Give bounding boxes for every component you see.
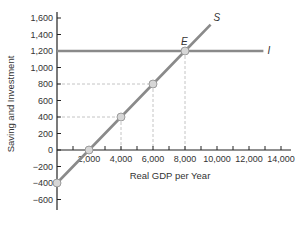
data-point-marker: [117, 113, 125, 121]
y-tick-label: 1,000: [30, 63, 53, 73]
y-axis-title: Saving and Investment: [5, 55, 16, 152]
data-point-marker: [181, 47, 189, 55]
saving-investment-chart: −600−400−20002004006008001,0001,2001,400…: [0, 0, 308, 226]
data-point-marker: [85, 146, 93, 154]
y-tick-label: 200: [38, 129, 53, 139]
x-tick-label: 10,000: [203, 154, 231, 164]
x-tick-label: 14,000: [267, 154, 295, 164]
x-tick-label: 8,000: [174, 154, 197, 164]
y-tick-label: −400: [33, 178, 53, 188]
y-tick-label: 1,200: [30, 46, 53, 56]
series-label-s: S: [214, 12, 221, 23]
y-tick-label: 0: [48, 145, 53, 155]
y-tick-label: 1,400: [30, 30, 53, 40]
x-tick-label: 12,000: [235, 154, 263, 164]
y-tick-label: 800: [38, 79, 53, 89]
x-tick-label: 4,000: [110, 154, 133, 164]
data-point-marker: [53, 179, 61, 187]
equilibrium-label: E: [181, 36, 188, 47]
series-label-i: I: [267, 45, 270, 56]
y-tick-label: 600: [38, 96, 53, 106]
y-tick-label: −600: [33, 195, 53, 205]
y-tick-label: 400: [38, 112, 53, 122]
x-axis-title: Real GDP per Year: [130, 170, 211, 181]
y-tick-label: −200: [33, 162, 53, 172]
y-tick-label: 1,600: [30, 13, 53, 23]
x-tick-label: 6,000: [142, 154, 165, 164]
data-point-marker: [149, 80, 157, 88]
